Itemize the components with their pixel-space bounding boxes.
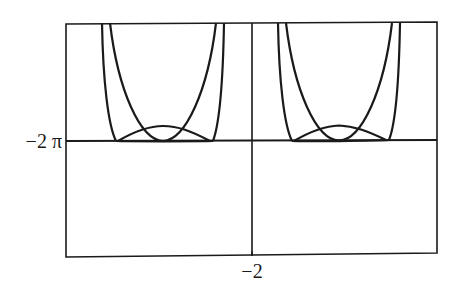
steep-u-curve-left-branch (278, 23, 292, 141)
wide-u-curve (286, 23, 392, 141)
curve-group-right (278, 23, 400, 141)
x-axis-tick-label: −2 (241, 260, 262, 282)
wide-u-curve (110, 23, 216, 141)
hump-curve (118, 126, 210, 141)
steep-u-curve-right-branch (213, 23, 224, 141)
plot-area: −2 π −2 (0, 0, 451, 284)
curve-group-left (102, 23, 224, 141)
hump-curve (294, 126, 386, 142)
y-axis-tick-label: −2 π (26, 130, 62, 152)
steep-u-curve-left-branch (102, 23, 116, 141)
